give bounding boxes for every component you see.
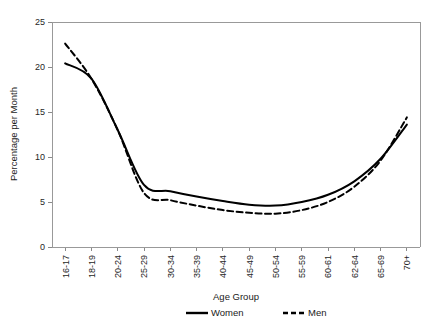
x-axis-tick-label: 18-19 (87, 255, 97, 278)
x-axis-tick-label: 30-34 (166, 255, 176, 278)
series-group (65, 44, 407, 214)
x-axis-title: Age Group (213, 291, 259, 302)
x-axis-tick-label: 20-24 (113, 255, 123, 278)
x-axis-tick-label: 70+ (402, 255, 412, 270)
y-axis-tick-group: 0510152025 (35, 17, 52, 252)
series-line-men (65, 44, 407, 214)
x-axis-tick-label: 16-17 (61, 255, 71, 278)
y-axis-tick-label: 25 (35, 17, 45, 27)
x-axis-tick-label: 50-54 (271, 255, 281, 278)
x-axis-tick-label: 55-59 (297, 255, 307, 278)
x-axis-tick-label: 60-61 (323, 255, 333, 278)
x-axis-tick-label: 65-69 (376, 255, 386, 278)
y-axis-tick-label: 5 (40, 197, 45, 207)
x-axis-tick-label: 25-29 (139, 255, 149, 278)
y-axis-tick-label: 10 (35, 152, 45, 162)
y-axis-title: Percentage per Month (8, 87, 19, 181)
chart-legend: WomenMen (186, 307, 326, 318)
x-axis-tick-label: 45-49 (245, 255, 255, 278)
x-axis-tick-group: 16-1718-1920-2425-2930-3435-3940-4445-49… (61, 247, 413, 278)
y-axis-tick-label: 0 (40, 242, 45, 252)
legend-label-men: Men (308, 307, 326, 318)
x-axis-tick-label: 40-44 (218, 255, 228, 278)
line-chart: 0510152025 16-1718-1920-2425-2930-3435-3… (0, 0, 444, 330)
y-axis-tick-label: 20 (35, 62, 45, 72)
legend-label-women: Women (211, 307, 244, 318)
x-axis-tick-label: 62-64 (350, 255, 360, 278)
y-axis-tick-label: 15 (35, 107, 45, 117)
x-axis-tick-label: 35-39 (192, 255, 202, 278)
chart-container: 0510152025 16-1718-1920-2425-2930-3435-3… (0, 0, 444, 330)
